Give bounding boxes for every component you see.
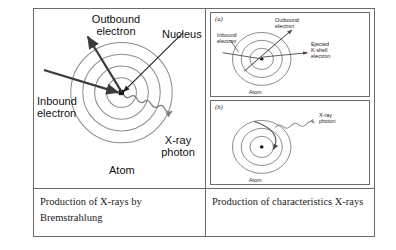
- caption-right: Production of characteristics X-rays: [206, 189, 374, 236]
- label-outbound-electron: Outbound electron: [78, 13, 154, 38]
- subpanel-b-label-atom: Atom: [249, 177, 262, 183]
- label-xray-photon: X-ray photon: [152, 134, 204, 159]
- subpanel-a-ejected-arrow: [262, 53, 308, 57]
- diagram-row: Outbound electron Nucleus Inbound electr…: [34, 9, 374, 189]
- subpanel-b-transition-arrow: [254, 121, 276, 149]
- subpanel-a-outbound-arrow: [244, 30, 292, 72]
- label-nucleus: Nucleus: [162, 28, 202, 40]
- subpanel-a: (a): [210, 12, 370, 97]
- bremsstrahlung-diagram-cell: Outbound electron Nucleus Inbound electr…: [34, 9, 206, 188]
- subpanel-a-label-atom: Atom: [249, 89, 262, 95]
- subpanel-b-label-xray-photon: X-ray photon: [319, 112, 336, 124]
- caption-left: Production of X-rays by Bremstrahlung: [34, 189, 206, 236]
- characteristic-xray-cell: (a): [206, 9, 374, 188]
- subpanel-a-label-outbound-electron: Outbound electron: [275, 17, 299, 29]
- label-atom: Atom: [109, 164, 135, 176]
- subpanel-b-nucleus: [260, 145, 264, 148]
- subpanel-b: (b): [210, 100, 370, 185]
- subpanel-a-label-inbound-electron: Inbound electron: [217, 32, 237, 44]
- label-inbound-electron: Inbound electron: [37, 95, 77, 120]
- caption-row: Production of X-rays by Bremstrahlung Pr…: [34, 189, 374, 236]
- nucleus-pointer-line: [123, 33, 183, 92]
- subpanel-b-svg: [211, 101, 369, 184]
- inbound-electron-arrow: [44, 70, 119, 93]
- figure-table: Outbound electron Nucleus Inbound electr…: [33, 8, 375, 237]
- subpanel-a-label-ejected-k-shell-electron: Ejected K-shell electron: [311, 41, 330, 59]
